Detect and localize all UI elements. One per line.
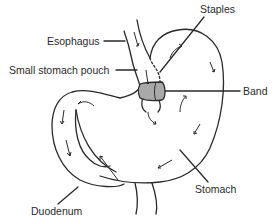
label-duodenum: Duodenum [31, 205, 82, 217]
stomach-leader [180, 150, 208, 182]
label-small-stomach-pouch: Small stomach pouch [9, 64, 109, 76]
label-stomach: Stomach [195, 183, 236, 195]
antrum-inner [76, 110, 116, 172]
label-esophagus: Esophagus [47, 35, 100, 47]
label-staples: Staples [200, 3, 235, 15]
duodenum-leader [58, 187, 78, 204]
duodenum-outer [52, 86, 140, 187]
staple-line [150, 58, 160, 82]
duodenum-inner [76, 110, 110, 167]
stomach-outer-wall [100, 29, 224, 182]
flow-arrows [60, 32, 215, 180]
esophagus-right-wall [137, 20, 150, 58]
bottom-vessel-1 [135, 183, 137, 214]
gastric-band-diagram: Staples Esophagus Small stomach pouch Ba… [0, 0, 276, 224]
gastric-band [139, 82, 166, 101]
esophagus-left-wall [124, 31, 140, 86]
bottom-vessel-2 [152, 183, 157, 214]
label-band: Band [243, 85, 268, 97]
staples-leader [160, 17, 204, 72]
